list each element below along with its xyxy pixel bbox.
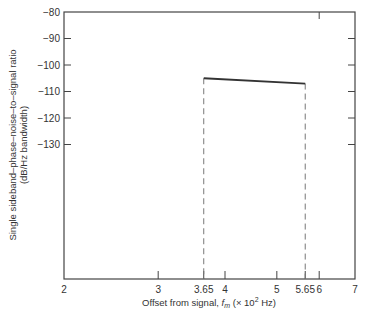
phase-noise-chart: −80−90−100−110−120−130 233.65455.6567 Of… (0, 0, 365, 317)
y-tick-label: −90 (43, 33, 60, 44)
y-tick-label: −120 (37, 113, 60, 124)
x-axis-label: Offset from signal, fm (× 102 Hz) (142, 296, 276, 309)
y-tick-label: −110 (38, 86, 60, 97)
y-tick-label: −80 (43, 7, 60, 18)
y-axis-label: Single sideband–phase–noise–to–signal ra… (7, 49, 29, 240)
dashed-markers (204, 78, 305, 279)
x-axis-ticks: 233.65455.6567 (61, 12, 358, 295)
y-tick-label: −130 (37, 139, 60, 150)
plot-frame (64, 12, 355, 279)
y-axis-label-line2: (dB/Hz bandwidth) (18, 106, 29, 184)
y-tick-label: −100 (37, 60, 60, 71)
x-tick-label: 5 (274, 284, 280, 295)
data-series (204, 78, 305, 83)
phase-noise-line (204, 78, 305, 83)
x-tick-label: 3.65 (194, 284, 214, 295)
x-tick-label: 3 (155, 284, 161, 295)
y-axis-ticks: −80−90−100−110−120−130 (37, 7, 355, 151)
x-tick-label: 7 (352, 284, 358, 295)
y-axis-label-line1: Single sideband–phase–noise–to–signal ra… (7, 49, 18, 240)
x-tick-label: 5.65 (295, 284, 315, 295)
x-tick-label: 4 (222, 284, 228, 295)
x-tick-label: 2 (61, 284, 67, 295)
x-tick-label: 6 (316, 284, 322, 295)
